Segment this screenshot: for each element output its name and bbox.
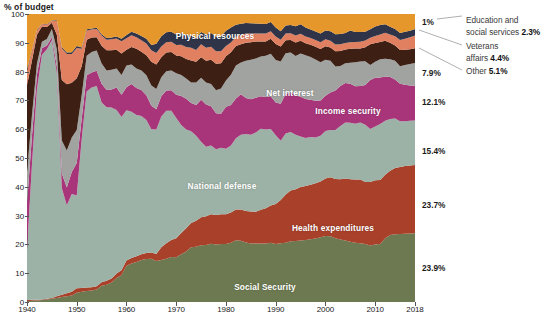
y-tick-mark xyxy=(25,244,29,245)
callout-value: 4.4% xyxy=(490,53,509,63)
x-tick-mark xyxy=(325,302,326,306)
value-label-health: 23.9% xyxy=(422,263,445,273)
x-tick-label: 2000 xyxy=(317,305,334,314)
y-tick-mark xyxy=(25,129,29,130)
x-tick-label: 1960 xyxy=(118,305,135,314)
y-tick-mark xyxy=(25,100,29,101)
stacked-area-svg xyxy=(27,14,415,302)
callout-line-2: social services 2.3% xyxy=(466,27,540,39)
x-tick-label: 2010 xyxy=(367,305,384,314)
y-tick-label: 10 xyxy=(15,269,24,278)
y-tick-mark xyxy=(25,14,29,15)
callout-veterans: Veteransaffairs 4.4% xyxy=(466,41,509,64)
y-tick-label: 80 xyxy=(15,67,24,76)
chart-root: % of budget 0102030405060708090100 Socia… xyxy=(0,0,543,327)
x-tick-label: 1950 xyxy=(68,305,85,314)
callout-value: 5.1% xyxy=(489,66,508,76)
x-tick-mark xyxy=(415,302,416,306)
leader-line xyxy=(419,30,462,45)
x-tick-mark xyxy=(375,302,376,306)
y-tick-label: 20 xyxy=(15,240,24,249)
y-tick-mark xyxy=(25,273,29,274)
x-tick-label: 2018 xyxy=(406,305,423,314)
y-tick-mark xyxy=(25,187,29,188)
callout-line-1: Education and xyxy=(466,15,540,27)
x-tick-mark xyxy=(126,302,127,306)
x-tick-mark xyxy=(176,302,177,306)
x-tick-label: 1980 xyxy=(217,305,234,314)
callout-line-2: affairs 4.4% xyxy=(466,53,509,65)
y-tick-mark xyxy=(25,216,29,217)
y-axis: 0102030405060708090100 xyxy=(0,14,24,302)
leader-line xyxy=(437,16,462,19)
y-tick-mark xyxy=(25,43,29,44)
x-tick-mark xyxy=(27,302,28,306)
y-tick-label: 40 xyxy=(15,182,24,191)
y-tick-label: 100 xyxy=(11,10,24,19)
x-tick-mark xyxy=(226,302,227,306)
y-tick-mark xyxy=(25,158,29,159)
leader-line xyxy=(419,48,462,70)
x-tick-mark xyxy=(77,302,78,306)
x-tick-label: 1970 xyxy=(168,305,185,314)
y-tick-mark xyxy=(25,72,29,73)
value-label-defense: 23.7% xyxy=(422,200,445,210)
value-label-education: 1% xyxy=(422,17,434,27)
plot-area xyxy=(27,14,415,302)
callout-other: Other 5.1% xyxy=(466,66,507,78)
callout-value: 2.3% xyxy=(521,27,540,37)
value-label-interest: 12.1% xyxy=(422,97,445,107)
y-tick-label: 50 xyxy=(15,154,24,163)
y-tick-label: 70 xyxy=(15,96,24,105)
x-tick-label: 1940 xyxy=(18,305,35,314)
y-tick-label: 90 xyxy=(15,38,24,47)
y-tick-label: 60 xyxy=(15,125,24,134)
y-tick-label: 30 xyxy=(15,211,24,220)
callout-line-1: Other 5.1% xyxy=(466,66,507,78)
value-label-income: 15.4% xyxy=(422,146,445,156)
x-tick-mark xyxy=(276,302,277,306)
callout-line-1: Veterans xyxy=(466,41,509,53)
callout-education: Education andsocial services 2.3% xyxy=(466,15,540,38)
value-label-other: 7.9% xyxy=(422,68,441,78)
x-tick-label: 1990 xyxy=(267,305,284,314)
